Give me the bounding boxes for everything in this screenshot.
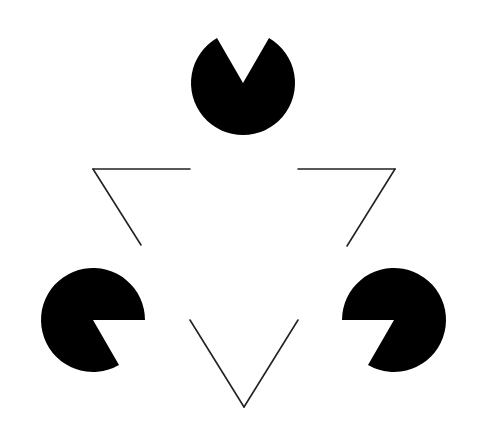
pacman-shapes — [41, 38, 446, 372]
pacman-bottom-right — [342, 268, 446, 372]
triangle-segment — [93, 169, 141, 245]
kanizsa-figure: Kanizsa triangle illusion — [0, 0, 478, 432]
pacman-top — [191, 38, 295, 135]
illusion-canvas — [0, 0, 478, 432]
triangle-segment — [244, 320, 298, 407]
triangle-segment — [190, 320, 244, 407]
outline-triangle — [93, 169, 395, 407]
triangle-segment — [347, 169, 395, 246]
pacman-bottom-left — [41, 268, 145, 372]
